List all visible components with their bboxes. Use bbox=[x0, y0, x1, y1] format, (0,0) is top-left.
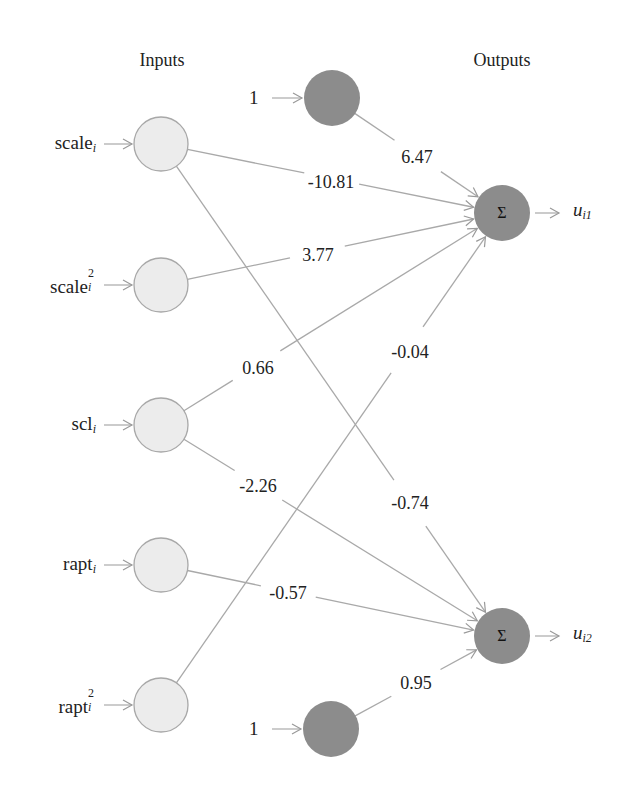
input-node-scl bbox=[134, 398, 188, 452]
weight-label: -2.26 bbox=[239, 477, 277, 495]
input-node-scale bbox=[134, 117, 188, 171]
weight-label: -0.74 bbox=[391, 494, 429, 512]
weight-label: 0.95 bbox=[400, 674, 432, 692]
sigma-icon: Σ bbox=[497, 627, 506, 645]
weight-label: 6.47 bbox=[401, 148, 433, 166]
edge-scl-u2 bbox=[184, 439, 477, 621]
input-label-scl: scli bbox=[72, 414, 96, 433]
input-label-rapt: rapti bbox=[63, 554, 96, 573]
network-diagram bbox=[0, 0, 629, 794]
inputs-header: Inputs bbox=[140, 50, 185, 71]
input-label-rapt2: rapt2i bbox=[58, 694, 96, 716]
output-label-u1: ui1 bbox=[573, 200, 592, 219]
sigma-icon: Σ bbox=[497, 204, 506, 222]
edge-rapt-u2 bbox=[187, 571, 473, 631]
input-node-rapt2 bbox=[134, 678, 188, 732]
weight-label: 0.66 bbox=[242, 359, 274, 377]
bias-node bbox=[304, 70, 360, 126]
edge-rapt2-u1 bbox=[176, 237, 485, 683]
input-label-scale2: scale2i bbox=[50, 274, 96, 296]
weight-label: -0.57 bbox=[269, 584, 307, 602]
output-label-u2: ui2 bbox=[573, 623, 592, 642]
input-label-scale: scalei bbox=[55, 133, 96, 152]
input-node-rapt bbox=[134, 538, 188, 592]
weight-label: -10.81 bbox=[308, 173, 355, 191]
bias-label: 1 bbox=[249, 719, 259, 738]
bias-node bbox=[303, 701, 359, 757]
weight-label: -0.04 bbox=[391, 343, 429, 361]
weight-label: 3.77 bbox=[302, 246, 334, 264]
bias-label: 1 bbox=[249, 88, 259, 107]
input-node-scale2 bbox=[134, 258, 188, 312]
outputs-header: Outputs bbox=[473, 50, 530, 71]
weight-edges bbox=[176, 113, 485, 716]
edge-scale-u2 bbox=[176, 166, 485, 612]
